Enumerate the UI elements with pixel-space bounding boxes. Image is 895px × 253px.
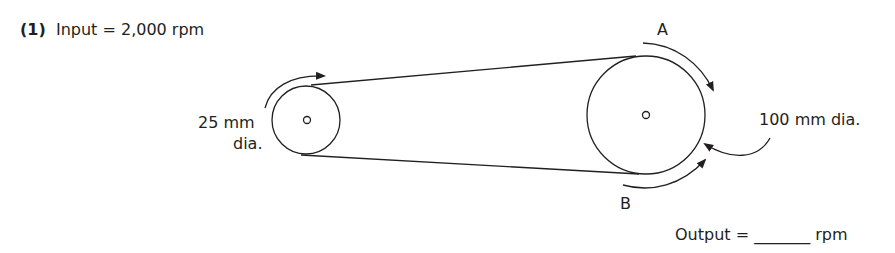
output-unit: rpm (815, 225, 847, 244)
driven-pulley-axle (643, 112, 650, 119)
driver-diameter-label-dia: dia. (233, 136, 263, 152)
point-b-label: B (620, 196, 631, 212)
driver-pulley (272, 86, 340, 154)
driven-diameter-label: 100 mm dia. (759, 112, 860, 128)
dimension-leader (705, 138, 770, 155)
driven-pulley (587, 56, 705, 174)
output-blank[interactable]: _______ (754, 225, 810, 244)
driver-diameter-label: 25 mm (198, 115, 255, 131)
question-number-and-input: (1) Input = 2,000 rpm (20, 22, 204, 38)
point-a-label: A (657, 22, 668, 38)
arrow-a (643, 43, 713, 90)
belt-top (311, 56, 636, 85)
output-answer-line: Output = _______ rpm (675, 227, 848, 243)
output-label: Output = (675, 225, 749, 244)
driver-rotation-arrow (265, 76, 324, 108)
driver-pulley-axle (304, 117, 311, 124)
belt-bottom (301, 155, 639, 174)
input-speed-label: Input = 2,000 rpm (56, 20, 204, 39)
question-number: (1) (20, 20, 46, 39)
